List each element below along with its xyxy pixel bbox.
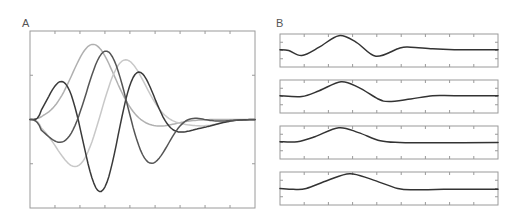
panel-b-subplot-2-axes-frame bbox=[280, 80, 498, 113]
panel-b-subplot-2-line bbox=[280, 82, 498, 102]
panel-b bbox=[280, 34, 498, 205]
panel-a-label: A bbox=[22, 17, 30, 29]
panel-a-series-3 bbox=[30, 72, 255, 192]
panel-b-subplot-2 bbox=[280, 80, 498, 113]
panel-b-subplot-4-line bbox=[280, 174, 498, 190]
panel-a-series-2 bbox=[30, 60, 255, 167]
figure: A B bbox=[0, 0, 521, 220]
panel-b-subplot-1-line bbox=[280, 36, 498, 57]
panel-b-subplot-1 bbox=[280, 34, 498, 67]
panel-a bbox=[30, 31, 255, 208]
panel-b-subplot-4 bbox=[280, 172, 498, 205]
panel-a-series-4 bbox=[30, 51, 255, 163]
panel-a-series-1 bbox=[30, 44, 255, 126]
panel-b-subplot-3-line bbox=[280, 128, 498, 143]
panel-b-label: B bbox=[276, 17, 283, 29]
panel-b-subplot-4-axes-frame bbox=[280, 172, 498, 205]
panel-b-subplot-3 bbox=[280, 126, 498, 159]
